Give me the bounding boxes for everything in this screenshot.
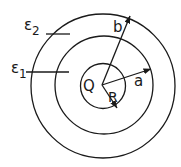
charge-label-Q: Q (83, 77, 95, 95)
radius-b-label: b (113, 18, 123, 36)
epsilon1-symbol: ε (11, 59, 19, 77)
epsilon1-subscript: 1 (19, 67, 27, 81)
epsilon1-label: ε1 (11, 59, 27, 81)
radius-a-arrow (102, 69, 151, 85)
radius-a-label: a (134, 72, 143, 90)
epsilon2-symbol: ε (24, 16, 32, 34)
epsilon2-label: ε2 (24, 16, 40, 38)
concentric-spheres-diagram: ε2 ε1 Q R a b (0, 0, 181, 167)
radius-R-label: R (108, 89, 118, 105)
epsilon2-subscript: 2 (32, 24, 40, 38)
